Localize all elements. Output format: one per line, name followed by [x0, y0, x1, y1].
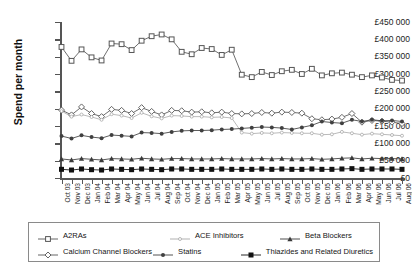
- data-point-marker: [99, 58, 104, 63]
- data-point-marker: [110, 133, 114, 137]
- data-point-marker: [249, 167, 254, 172]
- data-point-marker: [60, 110, 63, 113]
- data-point-marker: [270, 125, 274, 129]
- data-point-marker: [269, 73, 274, 78]
- data-point-marker: [270, 132, 273, 135]
- data-point-marker: [320, 133, 323, 136]
- data-point-marker: [350, 118, 354, 122]
- data-point-marker: [239, 111, 245, 117]
- data-point-marker: [339, 114, 345, 120]
- data-point-marker: [320, 119, 324, 123]
- data-point-marker: [299, 110, 305, 116]
- data-point-marker: [239, 167, 244, 172]
- legend-item-thiazides[interactable]: Thiazides and Related Diuretics: [240, 246, 373, 256]
- legend-item-calcium-channel-blockers[interactable]: Calcium Channel Blockers: [37, 246, 152, 256]
- data-point-marker: [379, 166, 384, 171]
- data-point-marker: [279, 69, 284, 74]
- data-point-marker: [339, 166, 344, 171]
- data-point-marker: [190, 129, 194, 133]
- data-point-marker: [289, 109, 295, 115]
- data-point-marker: [340, 121, 344, 125]
- open-square-icon: [37, 230, 59, 240]
- data-point-marker: [109, 106, 115, 112]
- data-point-marker: [149, 167, 154, 172]
- data-point-marker: [90, 115, 93, 118]
- data-point-marker: [340, 130, 343, 133]
- chart-legend: A2RAs ACE Inhibitors Beta Blockers Calci…: [28, 222, 380, 262]
- data-point-marker: [129, 48, 134, 53]
- data-point-marker: [380, 119, 384, 123]
- data-point-marker: [149, 108, 155, 114]
- data-point-marker: [209, 167, 214, 172]
- data-point-marker: [389, 166, 394, 171]
- data-point-marker: [229, 167, 234, 172]
- data-point-marker: [250, 132, 253, 135]
- data-point-marker: [109, 41, 114, 46]
- data-point-marker: [179, 166, 184, 171]
- data-point-marker: [200, 115, 203, 118]
- data-point-marker: [179, 108, 185, 114]
- data-point-marker: [139, 166, 144, 171]
- data-point-marker: [279, 166, 284, 171]
- legend-item-label: Beta Blockers: [305, 231, 352, 240]
- data-point-marker: [189, 52, 194, 57]
- legend-row: A2RAs ACE Inhibitors Beta Blockers: [37, 227, 373, 243]
- data-point-marker: [240, 131, 243, 134]
- data-point-marker: [159, 167, 164, 172]
- data-point-marker: [90, 135, 94, 139]
- data-point-marker: [59, 45, 64, 50]
- legend-row: Calcium Channel Blockers Statins Thiazid…: [37, 243, 373, 259]
- data-point-marker: [240, 126, 244, 130]
- legend-item-label: Thiazides and Related Diuretics: [266, 247, 373, 256]
- data-point-marker: [290, 131, 293, 134]
- data-point-marker: [130, 134, 134, 138]
- data-point-marker: [199, 109, 205, 115]
- data-point-marker: [79, 47, 84, 52]
- data-point-marker: [401, 134, 404, 137]
- data-point-marker: [279, 109, 285, 115]
- legend-item-statins[interactable]: Statins: [152, 246, 240, 256]
- data-point-marker: [199, 46, 204, 51]
- data-point-marker: [330, 121, 334, 125]
- data-point-marker: [390, 134, 393, 137]
- data-point-marker: [360, 75, 365, 80]
- data-point-marker: [110, 113, 113, 116]
- data-point-marker: [190, 115, 193, 118]
- data-point-marker: [349, 166, 354, 171]
- data-point-marker: [199, 167, 204, 172]
- data-point-marker: [309, 66, 314, 71]
- series-beta-blockers: [59, 155, 405, 162]
- data-point-marker: [219, 53, 224, 58]
- data-point-marker: [360, 119, 364, 123]
- data-point-marker: [359, 167, 364, 172]
- legend-item-label: A2RAs: [63, 231, 87, 240]
- series-a2ras: [59, 32, 404, 83]
- legend-item-ace-inhibitors[interactable]: ACE Inhibitors: [169, 230, 279, 240]
- data-point-marker: [120, 114, 123, 117]
- data-point-marker: [400, 167, 405, 172]
- data-point-marker: [200, 129, 204, 133]
- data-point-marker: [169, 37, 174, 42]
- legend-item-a2ras[interactable]: A2RAs: [37, 230, 169, 240]
- data-point-marker: [140, 111, 143, 114]
- data-point-marker: [319, 73, 324, 78]
- data-point-marker: [220, 127, 224, 131]
- data-point-marker: [309, 116, 315, 122]
- data-point-marker: [169, 107, 175, 113]
- data-point-marker: [340, 70, 345, 75]
- data-point-marker: [280, 126, 284, 130]
- legend-item-beta-blockers[interactable]: Beta Blockers: [279, 230, 352, 240]
- data-point-marker: [300, 125, 304, 129]
- data-point-marker: [89, 167, 94, 172]
- data-point-marker: [230, 127, 234, 131]
- data-point-marker: [59, 167, 64, 172]
- data-point-marker: [370, 132, 373, 135]
- data-point-marker: [330, 133, 333, 136]
- data-point-marker: [120, 134, 124, 138]
- data-point-marker: [380, 75, 385, 80]
- data-point-marker: [219, 109, 225, 115]
- data-point-marker: [179, 49, 184, 54]
- data-point-marker: [310, 132, 313, 135]
- data-point-marker: [210, 128, 214, 132]
